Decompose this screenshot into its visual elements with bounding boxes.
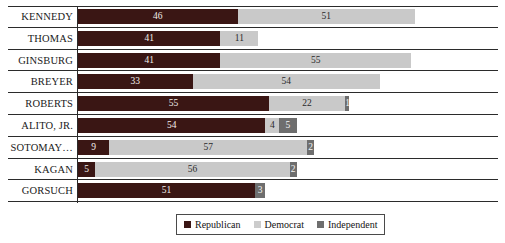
bar-value-label: 54 — [167, 120, 177, 130]
legend-item-republican[interactable]: Republican — [184, 219, 241, 230]
bar-value-label: 4 — [270, 120, 275, 130]
stacked-bar[interactable]: 4651 — [78, 9, 498, 24]
bar-segment-republican[interactable]: 5 — [78, 162, 95, 177]
stacked-bar[interactable]: 5562 — [78, 162, 498, 177]
chart-row: SOTOMAY…9572 — [0, 137, 505, 159]
bar-value-label: 5 — [286, 120, 291, 130]
category-label: GINSBURG — [0, 50, 73, 72]
chart-row: THOMAS4111 — [0, 28, 505, 50]
bar-value-label: 56 — [188, 164, 198, 174]
chart-row: BREYER3354 — [0, 71, 505, 93]
bar-value-label: 41 — [144, 55, 154, 65]
bar-segment-democrat[interactable]: 56 — [95, 162, 289, 177]
stacked-bar[interactable]: 5445 — [78, 118, 498, 133]
bar-segment-independent[interactable]: 1 — [345, 96, 348, 111]
category-label: SOTOMAY… — [0, 137, 73, 159]
bar-segment-democrat[interactable]: 4 — [265, 118, 279, 133]
bar-value-label: 2 — [308, 142, 313, 152]
bar-segment-independent[interactable]: 2 — [307, 140, 314, 155]
bar-segment-republican[interactable]: 55 — [78, 96, 269, 111]
gridline — [8, 6, 498, 7]
bar-value-label: 5 — [84, 164, 89, 174]
category-label: BREYER — [0, 71, 73, 93]
bar-segment-republican[interactable]: 51 — [78, 183, 255, 198]
legend-swatch-icon — [184, 221, 191, 228]
bar-value-label: 51 — [321, 11, 331, 21]
bar-segment-republican[interactable]: 41 — [78, 53, 220, 68]
stacked-bar[interactable]: 55221 — [78, 96, 498, 111]
bar-value-label: 2 — [291, 164, 296, 174]
bar-value-label: 55 — [169, 98, 179, 108]
bar-segment-republican[interactable]: 46 — [78, 9, 238, 24]
bar-value-label: 55 — [311, 55, 321, 65]
bar-segment-republican[interactable]: 9 — [78, 140, 109, 155]
stacked-bar-chart: KENNEDY4651THOMAS4111GINSBURG4155BREYER3… — [0, 0, 505, 243]
bar-segment-democrat[interactable]: 22 — [269, 96, 345, 111]
category-label: KENNEDY — [0, 6, 73, 28]
stacked-bar[interactable]: 3354 — [78, 74, 498, 89]
chart-row: ROBERTS55221 — [0, 93, 505, 115]
chart-legend: RepublicanDemocratIndependent — [176, 214, 385, 235]
chart-row: KAGAN5562 — [0, 159, 505, 181]
bar-segment-democrat[interactable]: 55 — [220, 53, 411, 68]
bar-value-label: 3 — [258, 185, 263, 195]
legend-item-independent[interactable]: Independent — [317, 219, 377, 230]
bar-segment-democrat[interactable]: 11 — [220, 31, 258, 46]
category-label: ALITO, JR. — [0, 115, 73, 137]
bar-value-label: 46 — [153, 11, 163, 21]
bar-segment-democrat[interactable]: 54 — [193, 74, 380, 89]
bar-segment-republican[interactable]: 33 — [78, 74, 193, 89]
legend-swatch-icon — [254, 221, 261, 228]
stacked-bar[interactable]: 9572 — [78, 140, 498, 155]
bar-value-label: 57 — [203, 142, 213, 152]
legend-swatch-icon — [317, 221, 324, 228]
bar-value-label: 11 — [235, 33, 244, 43]
category-label: ROBERTS — [0, 93, 73, 115]
chart-row: GORSUCH513 — [0, 180, 505, 202]
legend-item-democrat[interactable]: Democrat — [254, 219, 304, 230]
bar-segment-democrat[interactable]: 51 — [238, 9, 415, 24]
chart-row: ALITO, JR.5445 — [0, 115, 505, 137]
bar-segment-independent[interactable]: 5 — [279, 118, 296, 133]
chart-row: GINSBURG4155 — [0, 50, 505, 72]
category-label: KAGAN — [0, 159, 73, 181]
chart-row: KENNEDY4651 — [0, 6, 505, 28]
bar-value-label: 1 — [345, 98, 348, 108]
legend-label: Republican — [195, 219, 241, 230]
gridline — [8, 201, 498, 202]
bar-segment-republican[interactable]: 54 — [78, 118, 265, 133]
bar-segment-democrat[interactable]: 57 — [109, 140, 307, 155]
bar-value-label: 22 — [302, 98, 312, 108]
stacked-bar[interactable]: 4111 — [78, 31, 498, 46]
category-label: GORSUCH — [0, 180, 73, 202]
legend-label: Democrat — [265, 219, 304, 230]
legend-label: Independent — [328, 219, 377, 230]
bar-value-label: 51 — [162, 185, 172, 195]
stacked-bar[interactable]: 513 — [78, 183, 498, 198]
bar-segment-republican[interactable]: 41 — [78, 31, 220, 46]
category-axis-line — [77, 6, 78, 203]
bar-segment-independent[interactable]: 3 — [255, 183, 265, 198]
bar-value-label: 54 — [282, 76, 292, 86]
bar-segment-independent[interactable]: 2 — [290, 162, 297, 177]
stacked-bar[interactable]: 4155 — [78, 53, 498, 68]
bar-value-label: 33 — [131, 76, 141, 86]
category-label: THOMAS — [0, 28, 73, 50]
bar-value-label: 9 — [91, 142, 96, 152]
plot-area: KENNEDY4651THOMAS4111GINSBURG4155BREYER3… — [0, 6, 505, 204]
bar-value-label: 41 — [144, 33, 154, 43]
